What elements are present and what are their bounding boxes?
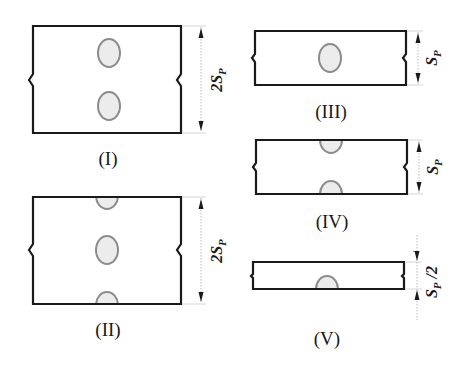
panel-II-hole-middle — [96, 236, 118, 264]
arrow-up-icon — [416, 33, 421, 43]
panel-V-dimension-label: SP /2 — [423, 266, 443, 298]
panel-II-label: (II) — [95, 319, 120, 341]
panel-III: SP (III) — [252, 31, 443, 123]
panel-III-label: (III) — [315, 101, 347, 123]
panel-IV-label: (IV) — [316, 211, 349, 233]
panel-V-label: (V) — [314, 328, 340, 350]
arrow-down-icon — [417, 182, 422, 192]
arrow-up-icon — [199, 199, 204, 209]
arrow-down-icon — [199, 121, 204, 131]
arrow-up-icon — [199, 28, 204, 38]
arrow-up-icon — [417, 142, 422, 152]
panel-IV-dimension-label: SP — [424, 159, 444, 175]
panel-III-hole — [319, 44, 341, 72]
panel-I-hole-top — [98, 39, 120, 67]
panel-I-label: (I) — [99, 148, 118, 170]
arrow-down-icon — [416, 73, 421, 83]
panel-II-dimension-label: 2SP — [208, 239, 228, 264]
panel-I-dimension-label: 2SP — [208, 68, 228, 93]
arrow-down-icon — [199, 292, 204, 302]
arrow-down-icon — [415, 251, 420, 261]
panel-V: SP /2 (V) — [251, 235, 443, 350]
panel-I-hole-bottom — [98, 92, 120, 120]
arrow-up-icon — [415, 290, 420, 300]
panel-II: 2SP (II) — [29, 183, 228, 341]
panel-IV: SP (IV) — [253, 127, 444, 233]
panel-I: 2SP (I) — [29, 26, 228, 170]
strip-diagram: 2SP (I) 2SP (II) SP (III) — [0, 0, 464, 370]
panel-III-dimension-label: SP — [423, 50, 443, 66]
